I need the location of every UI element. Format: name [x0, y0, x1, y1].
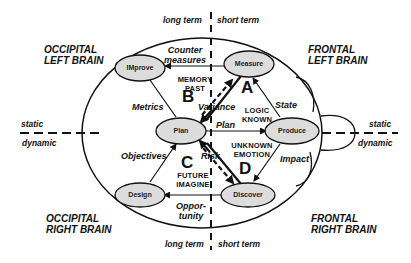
edge-label-metrics: Metrics — [132, 103, 164, 112]
quadrant-a: A — [241, 79, 253, 96]
edge-label-variance: Variance — [198, 103, 235, 112]
node-plan: Plan — [156, 127, 206, 134]
axis-right-static: static — [369, 120, 391, 129]
brain-cycle-diagram: long term short term long term short ter… — [0, 0, 411, 263]
region-occipital-right-brain: OCCIPITAL RIGHT BRAIN — [46, 213, 112, 235]
node-improve: IMprove — [115, 64, 165, 71]
region-frontal-left-brain: FRONTAL LEFT BRAIN — [308, 44, 367, 66]
edge-label-risk: Risk — [201, 152, 220, 161]
edge-label-countermeasures: Counter measures — [164, 45, 206, 65]
region-frontal-right-brain: FRONTAL RIGHT BRAIN — [311, 213, 377, 235]
quadrant-a-descriptor: LOGIC KNOWN — [237, 106, 277, 124]
node-design: Design — [115, 191, 165, 198]
quadrant-c: C — [181, 154, 193, 171]
node-discover: Discover — [221, 191, 275, 198]
quadrant-c-descriptor: FUTURE IMAGINE — [171, 171, 215, 189]
quadrant-b-descriptor: MEMORY PAST — [175, 75, 215, 93]
edge-label-impact: Impact — [280, 155, 309, 164]
axis-top-long-term: long term — [163, 16, 202, 25]
edge-label-objectives: Objectives — [121, 152, 167, 161]
edge-label-state: State — [275, 101, 297, 110]
edge-label-opportunity: Oppor- tunity — [176, 201, 206, 221]
axis-left-dynamic: dynamic — [22, 139, 57, 148]
quadrant-d-descriptor: UNKNOWN EMOTION — [227, 141, 277, 159]
axis-bottom-long-term: long term — [165, 240, 204, 249]
axis-left-static: static — [21, 120, 43, 129]
axis-top-short-term: short term — [217, 16, 259, 25]
region-occipital-left-brain: OCCIPITAL LEFT BRAIN — [44, 44, 103, 66]
axis-bottom-short-term: short term — [218, 240, 260, 249]
quadrant-d: D — [239, 160, 251, 177]
axis-right-dynamic: dynamic — [358, 139, 393, 148]
node-produce: Produce — [265, 127, 319, 134]
edge-label-plan: Plan — [216, 121, 235, 130]
node-measure: Measure — [224, 60, 274, 67]
